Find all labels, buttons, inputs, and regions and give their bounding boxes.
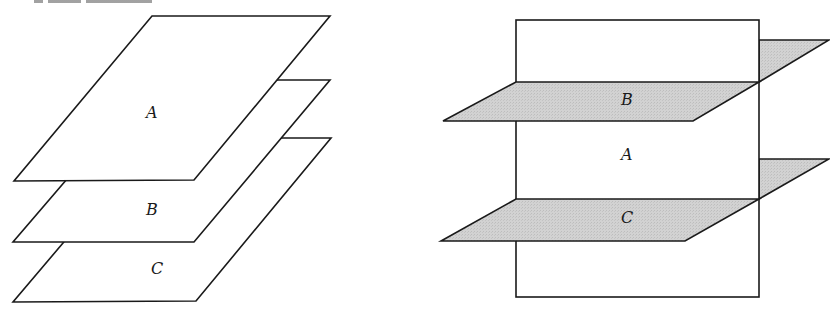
right-diagram-intersecting-planes <box>441 20 829 297</box>
plane-a-vertical <box>516 20 759 297</box>
label-c-left: C <box>151 259 163 278</box>
left-diagram-stacked-planes <box>13 16 331 302</box>
label-c-right: C <box>621 208 633 227</box>
plane-b-back-portion <box>759 40 829 82</box>
figure: A B C B A C <box>0 0 830 309</box>
label-a-right: A <box>619 145 633 164</box>
plane-c-back-portion <box>759 159 829 199</box>
diagram-canvas: A B C B A C <box>0 0 830 309</box>
label-a-left: A <box>144 103 158 122</box>
label-b-right: B <box>620 90 633 109</box>
label-b-left: B <box>145 200 158 219</box>
